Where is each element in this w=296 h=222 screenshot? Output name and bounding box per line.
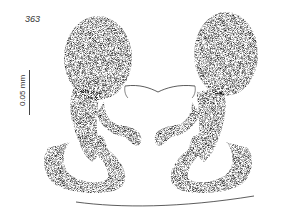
specimen-drawing	[0, 0, 296, 222]
right-coiled-duct	[155, 88, 252, 193]
left-coiled-duct	[44, 88, 141, 193]
median-plate-outline	[125, 85, 195, 92]
epigynal-margin-line	[76, 196, 254, 206]
right-spermatheca	[194, 12, 258, 96]
left-spermatheca	[64, 16, 132, 100]
